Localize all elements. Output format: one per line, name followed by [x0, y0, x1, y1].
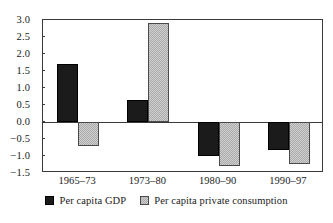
bar-group: [57, 20, 99, 171]
y-tick-mark: [42, 121, 45, 122]
y-tick-label: −0.5: [11, 133, 30, 144]
legend-item: Per capita GDP: [45, 195, 126, 206]
legend-swatch-consumption: [140, 196, 149, 205]
legend-label: Per capita private consumption: [154, 195, 287, 206]
y-tick-mark: [42, 53, 45, 54]
bar-consumption: [78, 122, 99, 146]
y-axis: 3.02.52.01.51.00.50.0−0.5−1.0−1.5: [0, 19, 36, 172]
bar-group: [127, 20, 169, 171]
chart-page: 3.02.52.01.51.00.50.0−0.5−1.0−1.5 1965–7…: [0, 0, 333, 223]
legend-item: Per capita private consumption: [140, 195, 287, 206]
y-tick-label: 1.0: [17, 82, 30, 93]
y-tick-label: 2.5: [17, 31, 30, 42]
bar-group: [198, 20, 240, 171]
bar-gdp: [57, 64, 78, 122]
y-tick-label: 3.0: [17, 14, 30, 25]
x-tick-label: 1965–73: [58, 175, 95, 186]
y-tick-mark: [42, 87, 45, 88]
y-tick-mark: [42, 104, 45, 105]
y-tick-label: 0.5: [17, 99, 30, 110]
bar-group: [268, 20, 310, 171]
y-tick-label: 1.5: [17, 65, 30, 76]
x-tick-label: 1990–97: [269, 175, 306, 186]
plot-area: [43, 20, 322, 171]
y-tick-mark: [42, 138, 45, 139]
bar-consumption: [148, 23, 169, 122]
bar-gdp: [268, 122, 289, 150]
bar-consumption: [219, 122, 240, 166]
x-tick-label: 1980–90: [199, 175, 236, 186]
plot-frame: [42, 19, 323, 172]
legend-label: Per capita GDP: [59, 195, 126, 206]
bar-gdp: [198, 122, 219, 156]
bar-consumption: [289, 122, 310, 164]
y-tick-label: −1.0: [11, 150, 30, 161]
chart-legend: Per capita GDPPer capita private consump…: [0, 195, 333, 206]
y-tick-mark: [42, 70, 45, 71]
y-tick-mark: [42, 36, 45, 37]
y-tick-label: −1.5: [11, 167, 30, 178]
y-tick-label: 0.0: [17, 116, 30, 127]
y-tick-mark: [42, 155, 45, 156]
y-tick-label: 2.0: [17, 48, 30, 59]
x-tick-label: 1973–80: [129, 175, 166, 186]
bar-gdp: [127, 100, 148, 122]
x-axis: 1965–731973–801980–901990–97: [42, 175, 323, 193]
legend-swatch-gdp: [45, 196, 54, 205]
